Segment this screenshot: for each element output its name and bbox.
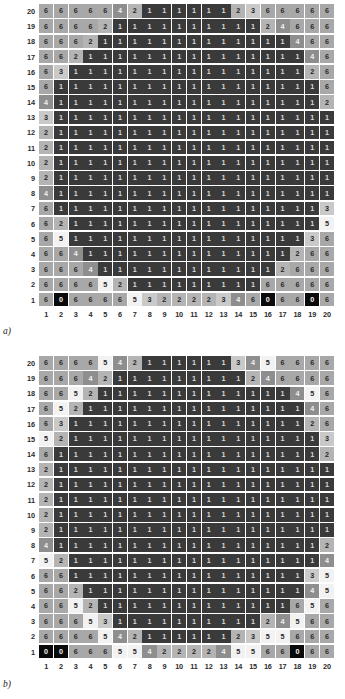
x-axis-tick-label: 15 (246, 662, 260, 671)
heatmap-cell: 1 (98, 247, 112, 261)
heatmap-cell: 1 (246, 186, 260, 200)
heatmap-cell: 6 (39, 247, 53, 261)
heatmap-cell: 1 (142, 141, 156, 155)
heatmap-row-cells: 21111111111111111111 (39, 156, 334, 171)
heatmap-cell: 5 (320, 217, 334, 231)
heatmap-cell: 1 (320, 508, 334, 522)
heatmap-cell: 1 (83, 584, 97, 598)
heatmap-cell: 5 (39, 432, 53, 446)
heatmap-cell: 1 (157, 417, 171, 431)
heatmap-cell: 1 (320, 493, 334, 507)
heatmap-cell: 1 (172, 247, 186, 261)
heatmap-cell: 1 (128, 508, 142, 522)
heatmap-cell: 1 (128, 247, 142, 261)
heatmap-cell: 1 (98, 50, 112, 64)
heatmap-cell: 1 (276, 50, 290, 64)
heatmap-cell: 1 (290, 432, 304, 446)
heatmap-cell: 1 (113, 432, 127, 446)
heatmap-cell: 1 (172, 599, 186, 613)
heatmap-row-cells: 61111111111111111112 (39, 447, 334, 462)
heatmap-cell: 1 (216, 111, 230, 125)
heatmap-cell: 2 (83, 599, 97, 613)
heatmap-cell: 1 (216, 630, 230, 644)
heatmap-cell: 1 (261, 554, 275, 568)
heatmap-cell: 4 (261, 371, 275, 385)
heatmap-cell: 1 (216, 417, 230, 431)
heatmap-cell: 1 (187, 217, 201, 231)
heatmap-cell: 6 (261, 4, 275, 18)
heatmap-cell: 0 (39, 645, 53, 659)
heatmap-cell: 1 (83, 508, 97, 522)
heatmap-cell: 1 (290, 447, 304, 461)
heatmap-cell: 1 (261, 95, 275, 109)
heatmap-row-cells: 66211111111111111146 (39, 50, 334, 65)
heatmap-row: 1461111111111111111112 (18, 447, 334, 462)
heatmap-cell: 6 (69, 614, 83, 628)
heatmap-cell: 1 (290, 171, 304, 185)
panel-a: 2066666421111112366666196666211111111112… (0, 0, 345, 348)
heatmap-cell: 4 (113, 4, 127, 18)
heatmap-cell: 1 (142, 171, 156, 185)
heatmap-cell: 6 (320, 19, 334, 33)
y-axis-tick-label: 9 (18, 527, 39, 534)
heatmap-cell: 1 (202, 569, 216, 583)
heatmap-cell: 1 (83, 247, 97, 261)
heatmap-cell: 1 (98, 599, 112, 613)
heatmap-cell: 1 (276, 202, 290, 216)
heatmap-cell: 1 (83, 50, 97, 64)
heatmap-cell: 1 (231, 95, 245, 109)
heatmap-cell: 1 (305, 186, 319, 200)
heatmap-cell: 1 (216, 508, 230, 522)
heatmap-row-cells: 60666653222234606606 (39, 293, 334, 308)
heatmap-cell: 1 (290, 111, 304, 125)
heatmap-cell: 2 (187, 293, 201, 307)
heatmap-cell: 1 (157, 447, 171, 461)
heatmap-row: 2066666421111112366666 (18, 4, 334, 19)
heatmap-cell: 1 (216, 95, 230, 109)
heatmap-cell: 1 (54, 111, 68, 125)
heatmap-cell: 1 (157, 171, 171, 185)
heatmap-cell: 1 (231, 186, 245, 200)
heatmap-cell: 5 (320, 569, 334, 583)
heatmap-cell: 1 (261, 156, 275, 170)
heatmap-cell: 1 (231, 126, 245, 140)
x-axis-tick-label: 20 (320, 662, 334, 671)
heatmap-cell: 1 (172, 447, 186, 461)
heatmap-cell: 1 (276, 171, 290, 185)
heatmap-cell: 1 (305, 493, 319, 507)
heatmap-cell: 1 (128, 584, 142, 598)
x-axis-tick-label: 7 (128, 310, 142, 319)
heatmap-cell: 1 (187, 232, 201, 246)
heatmap-cell: 1 (216, 614, 230, 628)
heatmap-cell: 1 (142, 523, 156, 537)
heatmap-cell: 1 (305, 538, 319, 552)
heatmap-cell: 6 (54, 262, 68, 276)
heatmap-cell: 5 (231, 645, 245, 659)
heatmap-cell: 1 (202, 554, 216, 568)
heatmap-cell: 2 (39, 463, 53, 477)
heatmap-cell: 1 (113, 523, 127, 537)
panel-label-a: a) (3, 326, 11, 336)
heatmap-cell: 1 (113, 614, 127, 628)
heatmap-cell: 1 (113, 478, 127, 492)
heatmap-cell: 1 (157, 463, 171, 477)
heatmap-cell: 1 (202, 599, 216, 613)
heatmap-row: 100666554222245566066 (18, 645, 334, 660)
heatmap-cell: 1 (54, 523, 68, 537)
heatmap-grid-a: 2066666421111112366666196666211111111112… (18, 4, 334, 319)
heatmap-cell: 1 (231, 202, 245, 216)
heatmap-cell: 1 (128, 538, 142, 552)
heatmap-cell: 1 (231, 80, 245, 94)
heatmap-cell: 1 (69, 463, 83, 477)
heatmap-cell: 6 (83, 645, 97, 659)
heatmap-cell: 3 (54, 417, 68, 431)
x-axis-tick-label: 8 (142, 662, 156, 671)
heatmap-cell: 1 (172, 80, 186, 94)
heatmap-cell: 1 (54, 493, 68, 507)
heatmap-row-cells: 21111111111111111111 (39, 463, 334, 478)
heatmap-cell: 1 (216, 247, 230, 261)
heatmap-cell: 1 (142, 402, 156, 416)
heatmap-cell: 1 (202, 478, 216, 492)
heatmap-cell: 1 (157, 356, 171, 370)
heatmap-row-cells: 66521111111111111656 (39, 599, 334, 614)
